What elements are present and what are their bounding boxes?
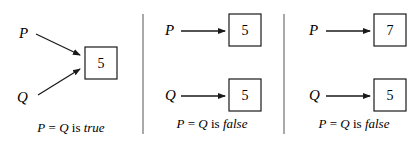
variable-p-label: P	[164, 22, 174, 38]
variable-q-label: Q	[17, 89, 28, 105]
q-arrow	[38, 69, 80, 95]
variable-p-label: P	[308, 22, 318, 38]
variable-q-label: Q	[165, 87, 176, 103]
caption: P = Q is false	[176, 116, 248, 131]
panel-separate-different: P Q 7 5 P = Q is false	[308, 14, 406, 131]
caption-result: false	[223, 116, 248, 131]
variable-p-label: P	[18, 25, 28, 41]
box-value: 5	[98, 56, 105, 71]
variable-q-label: Q	[309, 87, 320, 103]
q-box-value: 5	[242, 88, 249, 103]
panel-shared-reference: P Q 5 P = Q is true	[17, 25, 117, 135]
q-box-value: 5	[387, 88, 394, 103]
p-box-value: 7	[387, 23, 394, 38]
caption-result: false	[365, 116, 390, 131]
caption-result: true	[84, 120, 105, 135]
p-arrow	[36, 34, 80, 55]
caption: P = Q is false	[318, 116, 390, 131]
reference-equality-diagram: P Q 5 P = Q is true P Q 5 5 P = Q is fal…	[0, 0, 419, 141]
p-box-value: 5	[242, 23, 249, 38]
panel-separate-equal: P Q 5 5 P = Q is false	[164, 14, 261, 131]
caption: P = Q is true	[36, 120, 105, 135]
